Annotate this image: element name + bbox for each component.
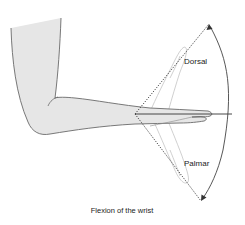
- dorsal-label: Dorsal: [184, 57, 207, 66]
- palmar-boundary-line: [135, 114, 201, 201]
- ghost-hand-palmar: [152, 116, 189, 183]
- arrowhead-bottom-icon: [201, 195, 207, 202]
- wrist-flexion-diagram: Dorsal Palmar Flexion of the wrist: [0, 0, 245, 225]
- palmar-label: Palmar: [184, 159, 210, 168]
- arm: [11, 18, 212, 135]
- figure-caption: Flexion of the wrist: [91, 206, 154, 215]
- arrowhead-top-icon: [207, 24, 213, 30]
- ghost-hand-dorsal: [150, 47, 187, 112]
- dorsal-boundary-line: [135, 24, 209, 114]
